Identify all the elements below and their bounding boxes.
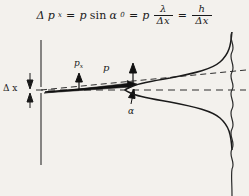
diffraction-diagram: Δ x px p α bbox=[0, 32, 249, 196]
equals-sign-1: = bbox=[65, 9, 76, 22]
fraction-numerator-lambda: λ bbox=[157, 4, 170, 15]
alpha-symbol: α bbox=[110, 9, 118, 22]
equals-sign-3: = bbox=[177, 9, 188, 22]
sin-function: sin bbox=[90, 9, 107, 22]
angle-alpha-label: α bbox=[128, 106, 134, 116]
intensity-distribution-curve bbox=[125, 32, 232, 150]
fraction-denominator-delta-x-2: Δx bbox=[192, 15, 211, 27]
momentum-symbol-2: p bbox=[79, 9, 86, 22]
delta-symbol-3: Δ bbox=[195, 15, 202, 26]
momentum-x-component-arrow-left bbox=[76, 73, 83, 90]
momentum-symbol: p bbox=[48, 9, 55, 22]
momentum-subscript-x: x bbox=[58, 11, 62, 19]
slit-width-label: Δ x bbox=[3, 83, 17, 93]
detection-screen bbox=[231, 32, 233, 196]
fraction-denominator-delta-x: Δx bbox=[154, 15, 173, 27]
momentum-symbol-3: p bbox=[142, 9, 149, 22]
equation-expression: Δpx = psinα0 = p λ Δx = h Δx bbox=[36, 4, 212, 26]
x-symbol-2: x bbox=[203, 15, 209, 26]
delta-symbol: Δ bbox=[36, 9, 44, 22]
alpha-subscript-zero: 0 bbox=[120, 11, 125, 19]
fraction-lambda-over-delta-x: λ Δx bbox=[154, 4, 173, 26]
momentum-label: p bbox=[103, 62, 109, 73]
equals-sign-2: = bbox=[128, 9, 139, 22]
fraction-numerator-h: h bbox=[196, 4, 209, 15]
slit-width-arrow bbox=[27, 73, 33, 108]
equation-line: Δpx = psinα0 = p λ Δx = h Δx bbox=[0, 4, 249, 26]
angle-alpha-indicator bbox=[129, 89, 136, 104]
figure-canvas: Δpx = psinα0 = p λ Δx = h Δx bbox=[0, 0, 249, 196]
x-symbol-1: x bbox=[164, 15, 170, 26]
delta-symbol-2: Δ bbox=[157, 15, 164, 26]
first-minimum-ray-dashed bbox=[41, 70, 246, 90]
fraction-h-over-delta-x: h Δx bbox=[192, 4, 211, 26]
momentum-x-label-sub: x bbox=[80, 62, 83, 69]
momentum-x-label: px bbox=[74, 58, 83, 69]
